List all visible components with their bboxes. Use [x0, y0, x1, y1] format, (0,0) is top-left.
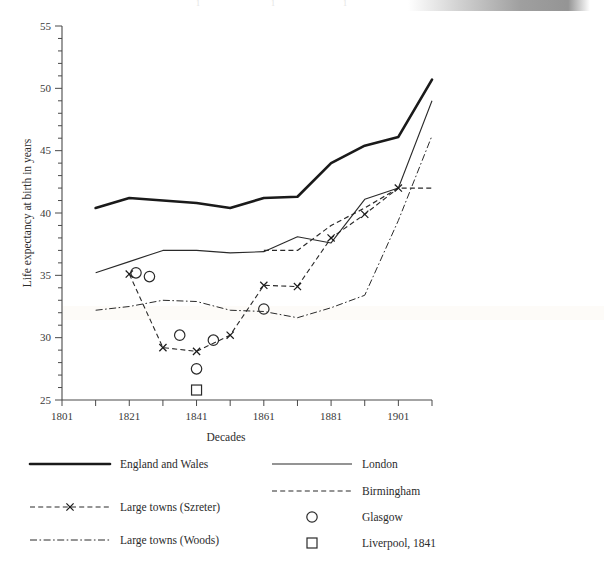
series-glasgow: [131, 268, 269, 374]
y-tick-label-55: 55: [40, 20, 52, 32]
x-axis-title: Decades: [207, 431, 246, 443]
x-tick-label-1841: 1841: [186, 410, 208, 422]
y-tick-label-35: 35: [40, 269, 52, 281]
series-large-towns-woods: [96, 136, 432, 318]
series-line-large-towns-woods: [96, 136, 432, 318]
legend-entry-london[interactable]: London: [272, 458, 398, 470]
legend-entry-england-and-wales[interactable]: England and Wales: [30, 458, 209, 471]
marker-circle-glasgow-1823: [131, 268, 141, 278]
y-tick-label-30: 30: [40, 331, 52, 343]
series-liverpool-1841: [192, 385, 202, 395]
x-tick-label-1901: 1901: [387, 410, 409, 422]
y-axis-title: Life expectancy at birth in years: [21, 138, 34, 287]
scan-band-artifact: [62, 306, 604, 320]
series-line-england-and-wales: [96, 80, 432, 208]
y-tick-label-45: 45: [40, 144, 52, 156]
legend-entry-large-towns-woods[interactable]: Large towns (Woods): [30, 534, 219, 547]
marker-circle-glasgow-1836: [175, 330, 185, 340]
series-london: [96, 101, 432, 273]
marker-circle-glasgow-1841: [191, 364, 201, 374]
x-tick-label-1861: 1861: [253, 410, 275, 422]
marker-x-large-towns-szreter-1841: [193, 348, 200, 355]
legend-entry-liverpool-1841[interactable]: Liverpool, 1841: [307, 537, 436, 550]
legend-label-glasgow: Glasgow: [362, 511, 404, 524]
marker-x-large-towns-szreter-1881: [327, 234, 334, 241]
x-tick-label-1801: 1801: [51, 410, 73, 422]
legend-label-large-towns-szreter: Large towns (Szreter): [120, 501, 220, 514]
x-axis-ticks: [62, 400, 432, 406]
chart-legend: England and WalesLondonBirminghamLarge t…: [30, 458, 436, 550]
legend-entry-glasgow[interactable]: Glasgow: [307, 511, 404, 524]
marker-square-liverpool-1841-1841: [192, 385, 202, 395]
series-line-london: [96, 101, 432, 273]
figure-canvas: 1 1 1 25303540455055 1801182118411861188…: [0, 0, 604, 568]
series-england-and-wales: [96, 80, 432, 208]
axes: [62, 26, 432, 400]
marker-x-large-towns-szreter-1901: [395, 184, 402, 191]
marker-x-large-towns-szreter-1851: [227, 332, 234, 339]
x-axis-tick-labels: 180118211841186118811901: [51, 410, 409, 422]
series-line-large-towns-szreter: [129, 188, 398, 351]
marker-circle-glasgow-1827: [144, 271, 154, 281]
marker-x-large-towns-szreter-1891: [361, 211, 368, 218]
x-tick-label-1821: 1821: [118, 410, 140, 422]
marker-x-large-towns-szreter-1871: [294, 283, 301, 290]
y-tick-label-40: 40: [40, 207, 52, 219]
legend-label-england-and-wales: England and Wales: [120, 458, 209, 471]
y-tick-label-25: 25: [40, 394, 52, 406]
y-axis-ticks: [55, 26, 62, 400]
legend-square-icon: [307, 538, 317, 548]
chart-svg: 25303540455055 180118211841186118811901 …: [0, 0, 604, 568]
legend-entry-large-towns-szreter[interactable]: Large towns (Szreter): [30, 501, 220, 514]
legend-label-large-towns-woods: Large towns (Woods): [120, 534, 219, 547]
legend-label-london: London: [362, 458, 398, 470]
y-axis-tick-labels: 25303540455055: [40, 20, 52, 406]
y-tick-label-50: 50: [40, 82, 52, 94]
legend-circle-icon: [307, 512, 317, 522]
legend-label-birmingham: Birmingham: [362, 485, 420, 498]
series-layer: [96, 80, 432, 395]
x-tick-label-1881: 1881: [320, 410, 342, 422]
legend-label-liverpool-1841: Liverpool, 1841: [362, 537, 436, 550]
legend-entry-birmingham[interactable]: Birmingham: [272, 485, 420, 498]
